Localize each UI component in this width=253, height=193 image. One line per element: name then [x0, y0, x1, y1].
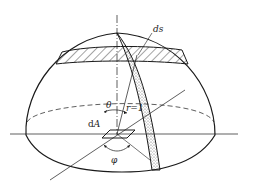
hatched-annulus — [56, 46, 188, 64]
label-phi: φ — [111, 155, 118, 165]
label-r: r=1 — [126, 103, 144, 113]
label-ds: ds — [153, 24, 164, 34]
label-theta: θ — [106, 100, 112, 110]
label-dA: dA — [88, 119, 101, 129]
phi-arc — [104, 145, 130, 151]
hemisphere-diagram: ds θ r=1 dA φ — [0, 0, 253, 193]
diagonal-axis — [50, 90, 185, 180]
theta-arc — [104, 110, 127, 113]
radius-line — [117, 55, 137, 134]
